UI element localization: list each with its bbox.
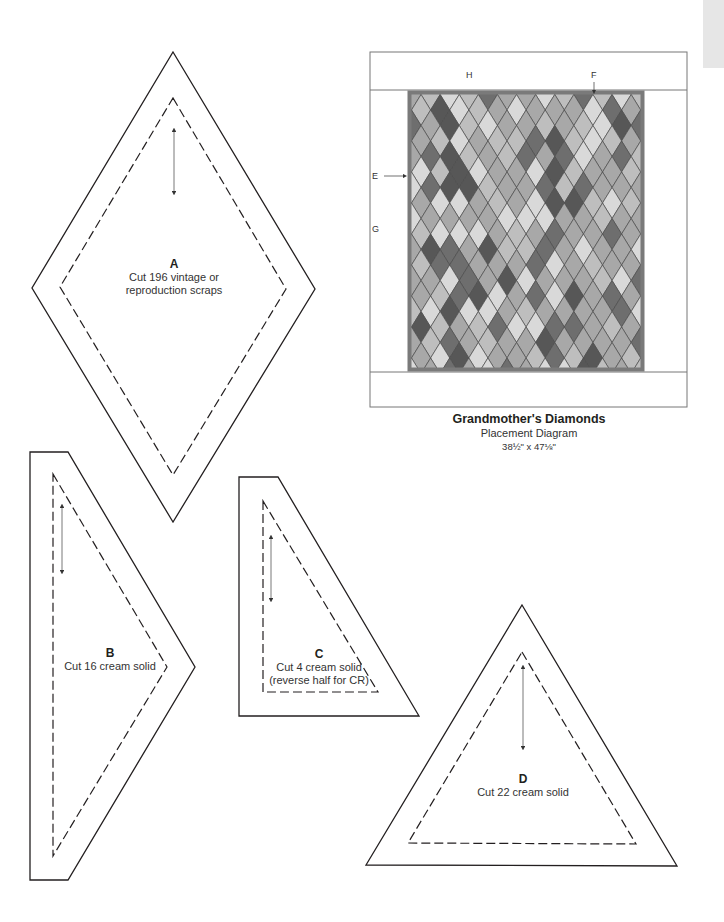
template-letter: D	[463, 773, 583, 786]
border-label-h: H	[466, 70, 473, 80]
template-d-triangle	[366, 605, 677, 866]
quilt-title: Grandmother's Diamonds	[370, 412, 688, 427]
quilt-subtitle: Placement Diagram	[370, 427, 688, 440]
border-label-e: E	[372, 171, 378, 181]
template-a-label: A Cut 196 vintage or reproduction scraps	[113, 258, 235, 297]
template-instruction: Cut 16 cream solid	[55, 660, 165, 673]
template-d-label: D Cut 22 cream solid	[463, 773, 583, 799]
template-instruction: (reverse half for CR)	[258, 674, 380, 687]
quilt-size: 38½" x 47⅛"	[370, 440, 688, 453]
template-instruction: Cut 4 cream solid	[258, 661, 380, 674]
pattern-artwork	[0, 0, 724, 922]
template-instruction: Cut 196 vintage or	[113, 271, 235, 284]
border-label-g: G	[372, 224, 379, 234]
template-letter: B	[55, 647, 165, 660]
template-letter: C	[258, 648, 380, 661]
placement-diagram	[370, 52, 687, 407]
template-instruction: Cut 22 cream solid	[463, 786, 583, 799]
template-letter: A	[113, 258, 235, 271]
placement-caption: Grandmother's Diamonds Placement Diagram…	[370, 412, 688, 453]
template-c-label: C Cut 4 cream solid (reverse half for CR…	[258, 648, 380, 687]
border-label-f: F	[591, 70, 597, 80]
template-instruction: reproduction scraps	[113, 284, 235, 297]
template-b-label: B Cut 16 cream solid	[55, 647, 165, 673]
